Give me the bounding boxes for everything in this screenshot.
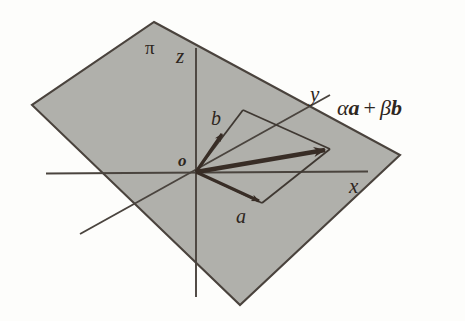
vector-a-bold-symbol: a bbox=[349, 95, 360, 120]
vector-a-label: a bbox=[236, 206, 246, 226]
plus-symbol: + bbox=[360, 95, 380, 120]
vector-plane-figure bbox=[0, 0, 465, 321]
vector-b-label: b bbox=[211, 108, 221, 128]
plane-pi-surface bbox=[32, 22, 400, 305]
vector-b-bold-symbol: b bbox=[391, 95, 402, 120]
linear-combination-label: αa+βb bbox=[337, 97, 402, 119]
axis-z-label: z bbox=[176, 46, 184, 67]
alpha-symbol: α bbox=[337, 95, 349, 120]
origin-label: o bbox=[178, 152, 187, 169]
axis-x-label: x bbox=[349, 176, 358, 197]
beta-symbol: β bbox=[380, 95, 391, 120]
axis-y-label: y bbox=[310, 84, 319, 105]
plane-pi-label: π bbox=[145, 38, 155, 57]
